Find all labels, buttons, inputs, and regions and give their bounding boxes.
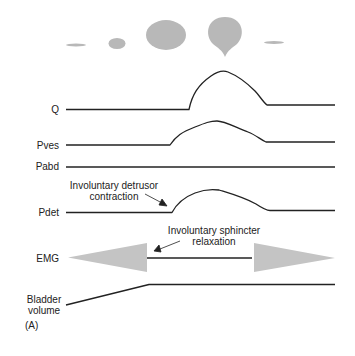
label-bladder-volume: Bladder volume xyxy=(22,294,66,316)
urine-stream-drops xyxy=(66,17,284,57)
sphincter-arrowhead-icon xyxy=(154,245,161,252)
emg-left-arrow xyxy=(68,243,147,272)
annotation-sphincter: Involuntary sphincter relaxation xyxy=(164,225,264,247)
emg-right-arrow xyxy=(254,243,335,272)
annotation-detrusor: Involuntary detrusor contraction xyxy=(64,180,164,202)
annotation-sphincter-line2: relaxation xyxy=(164,236,264,247)
label-q: Q xyxy=(51,104,59,115)
label-pdet: Pdet xyxy=(38,207,59,218)
label-pves: Pves xyxy=(37,140,59,151)
label-bladder-volume-line2: volume xyxy=(22,305,66,316)
label-emg: EMG xyxy=(36,253,59,264)
trace-q xyxy=(66,71,335,109)
teardrop xyxy=(208,17,242,57)
label-bladder-volume-line1: Bladder xyxy=(22,294,66,305)
small-drop xyxy=(109,38,126,49)
thin-stream-left xyxy=(66,44,86,47)
label-pabd: Pabd xyxy=(36,161,59,172)
annotation-detrusor-line1: Involuntary detrusor xyxy=(64,180,164,191)
thin-stream-right xyxy=(264,41,284,44)
trace-pves xyxy=(66,121,335,145)
large-drop xyxy=(146,20,186,50)
annotation-sphincter-line1: Involuntary sphincter xyxy=(164,225,264,236)
annotation-detrusor-line2: contraction xyxy=(64,191,164,202)
trace-bladder-volume xyxy=(66,285,335,306)
panel-label: (A) xyxy=(25,320,38,331)
